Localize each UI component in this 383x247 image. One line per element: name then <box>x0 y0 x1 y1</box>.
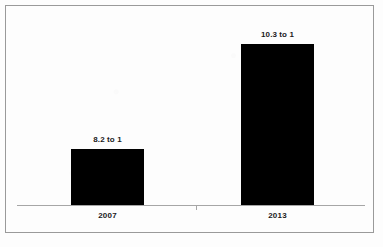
chart-screenshot: 8.2 to 1 10.3 to 1 2007 2013 <box>0 0 383 247</box>
x-axis-line <box>17 205 365 206</box>
x-axis-tick <box>196 206 197 210</box>
x-axis-label-2007: 2007 <box>71 211 144 220</box>
bar-value-label-2013: 10.3 to 1 <box>241 30 314 39</box>
bar-2013[interactable] <box>241 44 314 206</box>
x-axis-label-2013: 2013 <box>241 211 314 220</box>
bar-2007[interactable] <box>71 149 144 206</box>
bar-value-label-2007: 8.2 to 1 <box>71 135 144 144</box>
